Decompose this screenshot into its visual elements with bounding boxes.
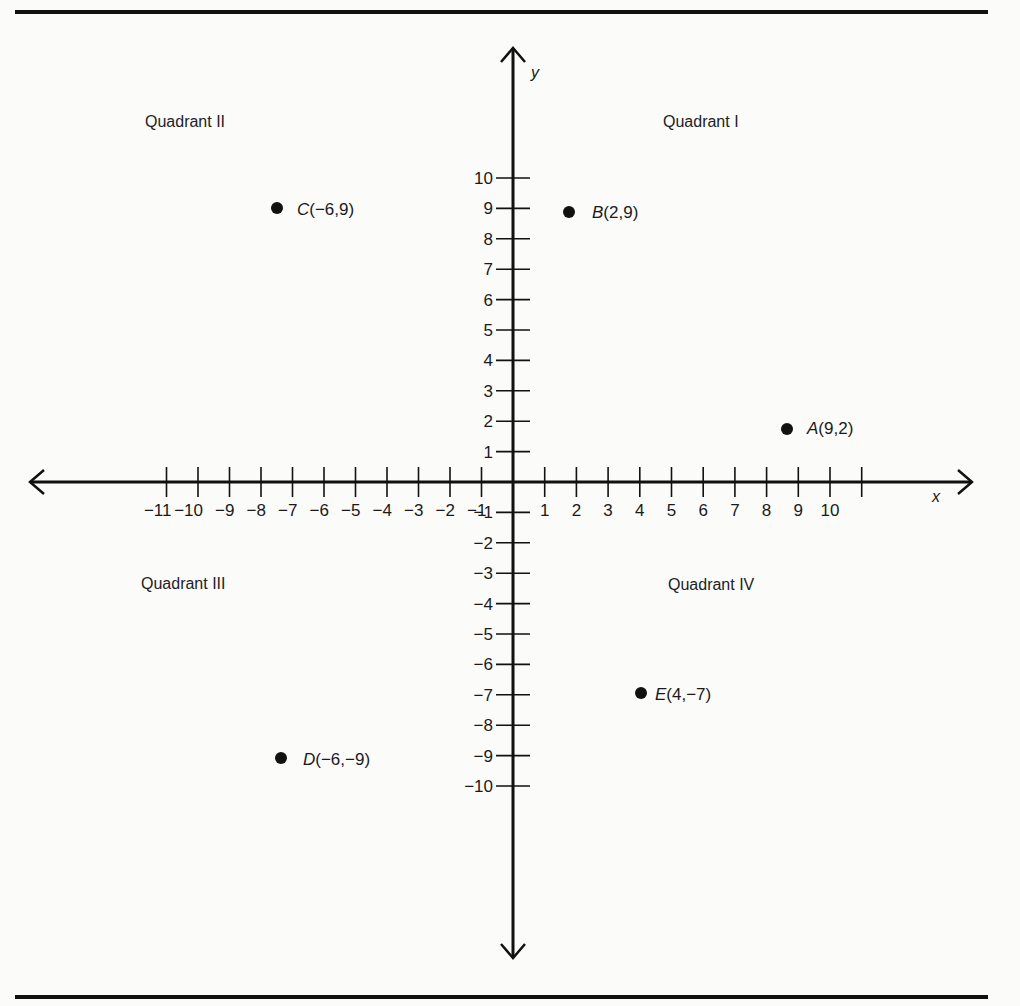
x-tick-label: −6 [310, 501, 329, 520]
y-tick-label: 3 [484, 382, 493, 401]
y-tick-label: 9 [484, 199, 493, 218]
svg-text:C(−6,9): C(−6,9) [297, 200, 354, 219]
point-e-dot-icon [635, 687, 647, 699]
point-a-letter: A [806, 419, 818, 438]
x-tick-label: 9 [794, 501, 803, 520]
quadrant-iii-label: Quadrant III [141, 575, 226, 592]
y-tick-label: 1 [484, 443, 493, 462]
y-tick-label: 4 [484, 351, 493, 370]
x-tick-label: −10 [174, 501, 203, 520]
quadrant-ii-label: Quadrant II [145, 113, 225, 130]
x-tick-label: 3 [603, 501, 612, 520]
point-a-dot-icon [781, 423, 793, 435]
svg-text:D(−6,−9): D(−6,−9) [303, 750, 370, 769]
coordinate-plane: −11−10−9−8−7−6−5−4−3−2−112345678910 1098… [0, 0, 1020, 1006]
point-c: C(−6,9) [271, 200, 354, 219]
y-tick-label: −7 [474, 686, 493, 705]
y-axis [501, 48, 525, 958]
point-e-letter: E [655, 685, 667, 704]
y-tick-label: 5 [484, 321, 493, 340]
point-c-dot-icon [271, 202, 283, 214]
x-tick-label: 2 [572, 501, 581, 520]
y-tick-label: −9 [474, 747, 493, 766]
point-d-dot-icon [275, 752, 287, 764]
y-tick-label: −6 [474, 655, 493, 674]
x-tick-label: 8 [762, 501, 771, 520]
point-d: D(−6,−9) [275, 750, 370, 769]
x-axis-label: x [931, 488, 941, 505]
x-tick-label: −7 [278, 501, 297, 520]
point-d-letter: D [303, 750, 315, 769]
point-e-coords: (4,−7) [666, 685, 711, 704]
quadrant-iv-label: Quadrant IV [668, 576, 755, 593]
x-tick-label: −2 [436, 501, 455, 520]
y-tick-label: −4 [474, 595, 493, 614]
y-tick-label: 6 [484, 291, 493, 310]
y-tick-label: 2 [484, 412, 493, 431]
point-b-coords: (2,9) [603, 203, 638, 222]
y-tick-label: −3 [474, 564, 493, 583]
point-c-coords: (−6,9) [309, 200, 354, 219]
y-tick-label: 10 [474, 169, 493, 188]
point-a-coords: (9,2) [818, 419, 853, 438]
x-tick-label: 1 [540, 501, 549, 520]
x-tick-label: 4 [635, 501, 644, 520]
svg-text:A(9,2): A(9,2) [806, 419, 853, 438]
y-tick-label: −10 [464, 777, 493, 796]
x-tick-label: −4 [373, 501, 392, 520]
point-b: B(2,9) [563, 203, 638, 222]
point-d-coords: (−6,−9) [315, 750, 370, 769]
x-tick-label: 5 [667, 501, 676, 520]
y-tick-label: 7 [484, 260, 493, 279]
x-tick-label: −5 [341, 501, 360, 520]
x-tick-label: −3 [404, 501, 423, 520]
point-b-letter: B [592, 203, 603, 222]
x-tick-label: 10 [821, 501, 840, 520]
x-tick-label: 6 [698, 501, 707, 520]
x-tick-label: −9 [215, 501, 234, 520]
y-axis-label: y [530, 64, 540, 81]
point-a: A(9,2) [781, 419, 853, 438]
x-tick-label: −8 [247, 501, 266, 520]
point-e: E(4,−7) [635, 685, 711, 704]
quadrant-i-label: Quadrant I [663, 113, 739, 130]
svg-text:E(4,−7): E(4,−7) [655, 685, 711, 704]
y-tick-label: 8 [484, 230, 493, 249]
x-tick-label: 7 [730, 501, 739, 520]
point-c-letter: C [297, 200, 310, 219]
y-tick-label: −1 [474, 503, 493, 522]
y-tick-label: −2 [474, 534, 493, 553]
svg-text:B(2,9): B(2,9) [592, 203, 638, 222]
y-tick-label: −8 [474, 716, 493, 735]
x-tick-label: −11 [144, 501, 172, 520]
y-tick-label: −5 [474, 625, 493, 644]
point-b-dot-icon [563, 206, 575, 218]
